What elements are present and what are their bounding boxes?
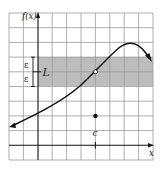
curve-left-arrow-icon	[9, 123, 16, 129]
limit-diagram: f(x) x L c ε ε	[0, 0, 160, 171]
grid	[9, 13, 153, 160]
epsilon-upper-label: ε	[24, 60, 29, 70]
epsilon-lower-label: ε	[24, 74, 29, 84]
open-point-icon	[93, 70, 97, 74]
filled-point-icon	[93, 114, 97, 118]
y-axis-label: f(x)	[21, 11, 37, 21]
point-c-label: c	[93, 128, 98, 138]
axes	[9, 16, 150, 160]
limit-label: L	[42, 66, 50, 79]
x-axis-label: x	[149, 148, 154, 158]
